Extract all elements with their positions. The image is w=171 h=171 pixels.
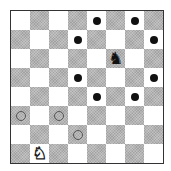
square-h7[interactable]: [144, 30, 163, 49]
square-b3[interactable]: [30, 106, 49, 125]
square-f3[interactable]: [106, 106, 125, 125]
square-d6[interactable]: [68, 49, 87, 68]
square-f8[interactable]: [106, 11, 125, 30]
square-h3[interactable]: [144, 106, 163, 125]
square-b1[interactable]: ♘: [30, 144, 49, 163]
square-d4[interactable]: [68, 87, 87, 106]
square-e2[interactable]: [87, 125, 106, 144]
filled-dot-marker-icon: [150, 36, 158, 44]
square-g8[interactable]: [125, 11, 144, 30]
square-e8[interactable]: [87, 11, 106, 30]
square-h2[interactable]: [144, 125, 163, 144]
square-f1[interactable]: [106, 144, 125, 163]
square-e7[interactable]: [87, 30, 106, 49]
square-c2[interactable]: [49, 125, 68, 144]
square-b5[interactable]: [30, 68, 49, 87]
square-a8[interactable]: [11, 11, 30, 30]
hollow-circle-marker-icon: [73, 130, 83, 140]
square-c5[interactable]: [49, 68, 68, 87]
square-b6[interactable]: [30, 49, 49, 68]
square-g1[interactable]: [125, 144, 144, 163]
square-h6[interactable]: [144, 49, 163, 68]
square-g5[interactable]: [125, 68, 144, 87]
square-h4[interactable]: [144, 87, 163, 106]
square-f6[interactable]: ♞: [106, 49, 125, 68]
square-b8[interactable]: [30, 11, 49, 30]
square-e1[interactable]: [87, 144, 106, 163]
square-a1[interactable]: [11, 144, 30, 163]
square-g3[interactable]: [125, 106, 144, 125]
filled-dot-marker-icon: [93, 17, 101, 25]
black-knight-icon[interactable]: ♞: [108, 49, 123, 68]
square-f4[interactable]: [106, 87, 125, 106]
square-d1[interactable]: [68, 144, 87, 163]
square-b7[interactable]: [30, 30, 49, 49]
square-b4[interactable]: [30, 87, 49, 106]
square-e3[interactable]: [87, 106, 106, 125]
filled-dot-marker-icon: [131, 93, 139, 101]
square-h5[interactable]: [144, 68, 163, 87]
square-a3[interactable]: [11, 106, 30, 125]
square-c6[interactable]: [49, 49, 68, 68]
square-d5[interactable]: [68, 68, 87, 87]
square-h8[interactable]: [144, 11, 163, 30]
square-a5[interactable]: [11, 68, 30, 87]
square-f2[interactable]: [106, 125, 125, 144]
square-g7[interactable]: [125, 30, 144, 49]
filled-dot-marker-icon: [74, 74, 82, 82]
square-c4[interactable]: [49, 87, 68, 106]
filled-dot-marker-icon: [74, 36, 82, 44]
square-c8[interactable]: [49, 11, 68, 30]
square-f5[interactable]: [106, 68, 125, 87]
square-h1[interactable]: [144, 144, 163, 163]
square-e6[interactable]: [87, 49, 106, 68]
filled-dot-marker-icon: [131, 17, 139, 25]
square-a2[interactable]: [11, 125, 30, 144]
square-c3[interactable]: [49, 106, 68, 125]
square-g6[interactable]: [125, 49, 144, 68]
square-g4[interactable]: [125, 87, 144, 106]
hollow-circle-marker-icon: [16, 111, 26, 121]
square-a4[interactable]: [11, 87, 30, 106]
filled-dot-marker-icon: [93, 93, 101, 101]
white-knight-icon[interactable]: ♘: [32, 144, 47, 163]
square-e5[interactable]: [87, 68, 106, 87]
square-c7[interactable]: [49, 30, 68, 49]
square-d3[interactable]: [68, 106, 87, 125]
square-a6[interactable]: [11, 49, 30, 68]
square-f7[interactable]: [106, 30, 125, 49]
square-e4[interactable]: [87, 87, 106, 106]
square-c1[interactable]: [49, 144, 68, 163]
filled-dot-marker-icon: [150, 74, 158, 82]
square-d7[interactable]: [68, 30, 87, 49]
square-a7[interactable]: [11, 30, 30, 49]
chess-board: ♞♘: [10, 10, 164, 164]
hollow-circle-marker-icon: [54, 111, 64, 121]
square-d2[interactable]: [68, 125, 87, 144]
square-d8[interactable]: [68, 11, 87, 30]
square-b2[interactable]: [30, 125, 49, 144]
square-g2[interactable]: [125, 125, 144, 144]
